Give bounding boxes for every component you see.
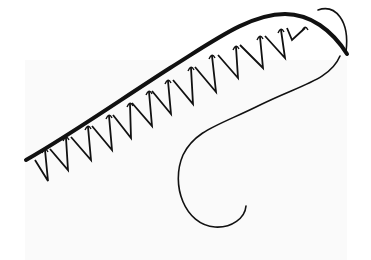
suture-diagram (0, 0, 371, 260)
stitch (132, 92, 152, 126)
thread-tail (178, 56, 340, 227)
stitch-zigzag (35, 27, 308, 181)
stitch (92, 116, 112, 150)
stitch (240, 37, 263, 68)
stitch (195, 56, 216, 92)
stitch (113, 104, 131, 138)
stitch (265, 30, 285, 58)
stitch (173, 68, 193, 104)
stitch (218, 47, 238, 78)
stitch (152, 81, 171, 114)
